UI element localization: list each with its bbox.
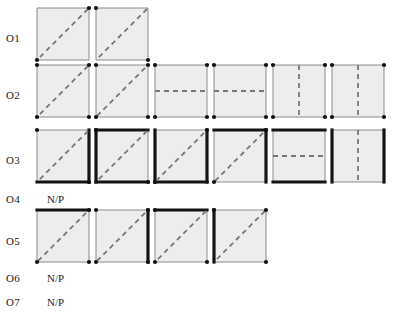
square-face	[273, 65, 325, 117]
square-glyph	[92, 126, 152, 186]
square-glyph	[269, 126, 329, 186]
square-o2-4	[210, 61, 270, 121]
vertex-dot-tl	[94, 128, 98, 132]
square-glyph	[328, 61, 388, 121]
square-glyph	[151, 126, 211, 186]
vertex-dot-bl	[212, 115, 216, 119]
square-o3-3	[151, 126, 211, 186]
vertex-dot-br	[146, 180, 150, 184]
square-o2-3	[151, 61, 211, 121]
row-label-o6: O6	[6, 273, 20, 284]
vertex-dot-br	[323, 115, 327, 119]
vertex-dot-br	[87, 180, 91, 184]
square-o1-2	[92, 4, 152, 64]
square-glyph	[33, 126, 93, 186]
square-glyph	[33, 61, 93, 121]
vertex-dot-tl	[94, 208, 98, 212]
square-o2-1	[33, 61, 93, 121]
vertex-dot-tl	[94, 6, 98, 10]
vertex-dot-br	[205, 115, 209, 119]
square-o5-3	[151, 206, 211, 266]
square-o3-2	[92, 126, 152, 186]
vertex-dot-bl	[94, 260, 98, 264]
row-label-o2: O2	[6, 90, 20, 101]
vertex-dot-bl	[35, 115, 39, 119]
figure-canvas: O1O2O3O4N/PO5O6N/PO7N/P	[0, 0, 399, 317]
square-o1-1	[33, 4, 93, 64]
vertex-dot-br	[146, 115, 150, 119]
vertex-dot-tr	[87, 208, 91, 212]
square-glyph	[151, 206, 211, 266]
square-glyph	[92, 61, 152, 121]
vertex-dot-tl	[35, 63, 39, 67]
square-glyph	[33, 4, 93, 64]
row-note-o4: N/P	[47, 194, 64, 205]
square-o5-4	[210, 206, 270, 266]
vertex-dot-br	[87, 115, 91, 119]
vertex-dot-tr	[146, 63, 150, 67]
square-face	[214, 65, 266, 117]
vertex-dot-bl	[94, 115, 98, 119]
vertex-dot-br	[264, 115, 268, 119]
square-o3-6	[328, 126, 388, 186]
vertex-dot-tl	[35, 128, 39, 132]
square-o5-1	[33, 206, 93, 266]
vertex-dot-br	[264, 260, 268, 264]
vertex-dot-br	[146, 260, 150, 264]
row-note-o7: N/P	[47, 297, 64, 308]
square-o3-5	[269, 126, 329, 186]
vertex-dot-bl	[271, 115, 275, 119]
vertex-dot-tl	[153, 208, 157, 212]
vertex-dot-bl	[212, 180, 216, 184]
vertex-dot-tl	[94, 63, 98, 67]
vertex-dot-bl	[153, 260, 157, 264]
square-o3-4	[210, 126, 270, 186]
vertex-dot-tl	[153, 63, 157, 67]
square-glyph	[92, 4, 152, 64]
square-glyph	[269, 61, 329, 121]
vertex-dot-tr	[323, 63, 327, 67]
square-glyph	[210, 206, 270, 266]
row-note-o6: N/P	[47, 273, 64, 284]
vertex-dot-tl	[212, 208, 216, 212]
square-glyph	[151, 61, 211, 121]
square-glyph	[328, 126, 388, 186]
vertex-dot-tr	[264, 128, 268, 132]
vertex-dot-tr	[264, 63, 268, 67]
square-o3-1	[33, 126, 93, 186]
square-face	[155, 65, 207, 117]
square-o2-6	[328, 61, 388, 121]
square-face	[332, 65, 384, 117]
vertex-dot-tl	[212, 63, 216, 67]
square-face	[332, 130, 384, 182]
vertex-dot-tl	[330, 63, 334, 67]
vertex-dot-br	[205, 260, 209, 264]
row-label-o7: O7	[6, 297, 20, 308]
vertex-dot-tr	[146, 208, 150, 212]
vertex-dot-bl	[35, 260, 39, 264]
vertex-dot-tr	[87, 63, 91, 67]
row-label-o4: O4	[6, 194, 20, 205]
square-glyph	[210, 126, 270, 186]
vertex-dot-bl	[153, 115, 157, 119]
vertex-dot-br	[87, 260, 91, 264]
square-o2-5	[269, 61, 329, 121]
row-label-o3: O3	[6, 155, 20, 166]
vertex-dot-tr	[382, 63, 386, 67]
vertex-dot-tr	[264, 208, 268, 212]
row-label-o1: O1	[6, 33, 20, 44]
vertex-dot-tr	[87, 6, 91, 10]
vertex-dot-tl	[271, 63, 275, 67]
vertex-dot-tr	[205, 128, 209, 132]
square-o2-2	[92, 61, 152, 121]
vertex-dot-br	[382, 115, 386, 119]
square-o5-2	[92, 206, 152, 266]
row-label-o5: O5	[6, 236, 20, 247]
square-face	[273, 130, 325, 182]
vertex-dot-tr	[205, 63, 209, 67]
vertex-dot-bl	[330, 115, 334, 119]
square-glyph	[210, 61, 270, 121]
vertex-dot-bl	[153, 180, 157, 184]
square-glyph	[92, 206, 152, 266]
square-glyph	[33, 206, 93, 266]
